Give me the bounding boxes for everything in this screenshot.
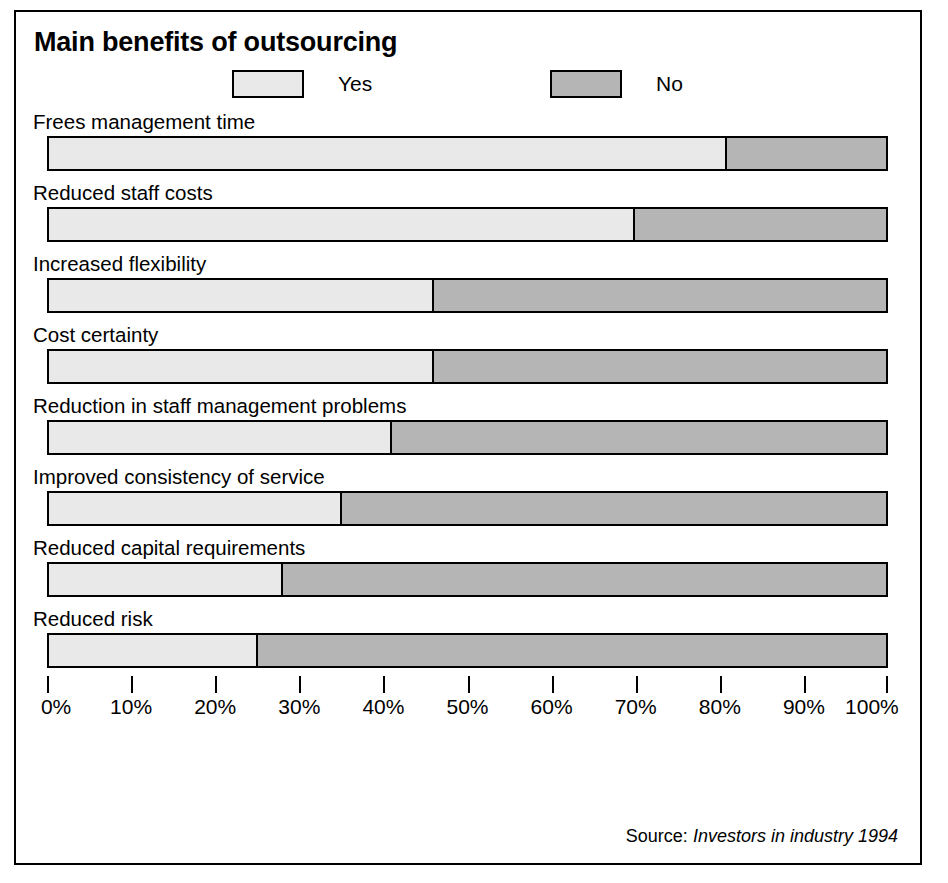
- bar-category-label: Cost certainty: [33, 321, 902, 349]
- bar-track: [47, 349, 888, 384]
- bar-category-label: Increased flexibility: [33, 250, 902, 278]
- bar-segment-no: [727, 138, 886, 169]
- axis-tick-label: 0%: [41, 695, 71, 719]
- axis-tick: [552, 676, 554, 693]
- bar-track: [47, 562, 888, 597]
- legend-item-no: No: [550, 70, 683, 98]
- chart-figure: Main benefits of outsourcing Yes No Free…: [14, 10, 922, 865]
- bar-segment-yes: [49, 635, 258, 666]
- bar-category-label: Reduced capital requirements: [33, 534, 902, 562]
- axis-tick-label: 60%: [531, 695, 573, 719]
- bar-segment-no: [392, 422, 886, 453]
- bar-row: Reduced staff costs: [32, 179, 902, 250]
- bar-category-label: Reduced risk: [33, 605, 902, 633]
- axis-tick: [804, 676, 806, 693]
- legend-item-yes: Yes: [232, 70, 372, 98]
- bar-track: [47, 633, 888, 668]
- page-title: Main benefits of outsourcing: [34, 28, 902, 56]
- bar-segment-yes: [49, 422, 392, 453]
- source-note: Source: Investors in industry 1994: [626, 826, 898, 847]
- source-label: Source:: [626, 826, 688, 846]
- bar-track: [47, 420, 888, 455]
- bar-segment-yes: [49, 351, 434, 382]
- axis-tick-label: 50%: [446, 695, 488, 719]
- bar-segment-yes: [49, 493, 342, 524]
- bar-segment-yes: [49, 209, 635, 240]
- axis-tick: [383, 676, 385, 693]
- legend-label-yes: Yes: [338, 72, 372, 96]
- bar-category-label: Reduced staff costs: [33, 179, 902, 207]
- bar-row: Reduction in staff management problems: [32, 392, 902, 463]
- bar-segment-no: [342, 493, 886, 524]
- bar-track: [47, 491, 888, 526]
- chart-inner: Main benefits of outsourcing Yes No Free…: [16, 12, 920, 863]
- axis-tick-label: 40%: [362, 695, 404, 719]
- legend-label-no: No: [656, 72, 683, 96]
- chart-legend: Yes No: [32, 62, 902, 106]
- bar-track: [47, 207, 888, 242]
- bar-row: Increased flexibility: [32, 250, 902, 321]
- bar-segment-no: [434, 280, 886, 311]
- x-axis: 0%10%20%30%40%50%60%70%80%90%100%: [47, 676, 888, 732]
- bar-track: [47, 278, 888, 313]
- bar-segment-yes: [49, 280, 434, 311]
- bar-row: Reduced risk: [32, 605, 902, 676]
- bar-row: Frees management time: [32, 108, 902, 179]
- bar-category-label: Improved consistency of service: [33, 463, 902, 491]
- bar-row: Improved consistency of service: [32, 463, 902, 534]
- bar-segment-no: [434, 351, 886, 382]
- axis-tick: [47, 676, 49, 693]
- bar-track: [47, 136, 888, 171]
- bar-segment-no: [635, 209, 886, 240]
- axis-tick-label: 90%: [783, 695, 825, 719]
- axis-tick: [215, 676, 217, 693]
- axis-tick-label: 100%: [845, 695, 899, 719]
- bar-row: Reduced capital requirements: [32, 534, 902, 605]
- legend-swatch-yes-icon: [232, 70, 304, 98]
- axis-tick: [720, 676, 722, 693]
- axis-tick-label: 20%: [194, 695, 236, 719]
- axis-tick: [886, 676, 888, 693]
- bar-segment-no: [258, 635, 886, 666]
- bar-segment-yes: [49, 564, 283, 595]
- axis-tick-label: 80%: [699, 695, 741, 719]
- bar-category-label: Frees management time: [33, 108, 902, 136]
- legend-swatch-no-icon: [550, 70, 622, 98]
- axis-tick: [131, 676, 133, 693]
- plot-area: Frees management time Reduced staff cost…: [32, 108, 902, 732]
- axis-tick-label: 10%: [110, 695, 152, 719]
- axis-tick-label: 30%: [278, 695, 320, 719]
- axis-tick: [299, 676, 301, 693]
- axis-tick: [636, 676, 638, 693]
- bar-segment-yes: [49, 138, 727, 169]
- bar-category-label: Reduction in staff management problems: [33, 392, 902, 420]
- source-value: Investors in industry 1994: [693, 826, 898, 846]
- axis-tick-label: 70%: [615, 695, 657, 719]
- bar-segment-no: [283, 564, 886, 595]
- axis-tick: [468, 676, 470, 693]
- bar-row: Cost certainty: [32, 321, 902, 392]
